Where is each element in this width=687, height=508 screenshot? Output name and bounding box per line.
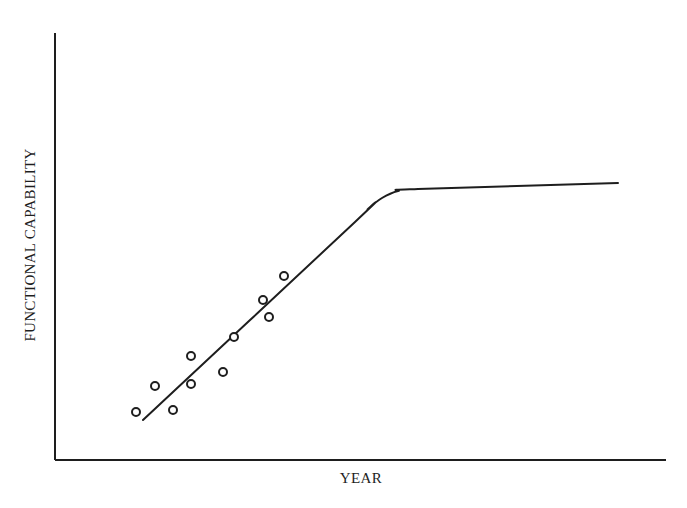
data-point-marker xyxy=(151,382,159,390)
chart-canvas xyxy=(0,0,687,508)
data-point-marker xyxy=(259,296,267,304)
data-point-marker xyxy=(132,408,140,416)
y-axis-label: FUNCTIONAL CAPABILITY xyxy=(22,148,39,341)
data-point-marker xyxy=(280,272,288,280)
data-point-marker xyxy=(219,368,227,376)
data-point-marker xyxy=(230,333,238,341)
trend-curve xyxy=(143,183,618,420)
data-point-marker xyxy=(187,380,195,388)
data-point-marker xyxy=(169,406,177,414)
data-points xyxy=(132,272,288,416)
data-point-marker xyxy=(265,313,273,321)
data-point-marker xyxy=(187,352,195,360)
x-axis-label: YEAR xyxy=(340,470,382,487)
axes xyxy=(55,33,666,460)
